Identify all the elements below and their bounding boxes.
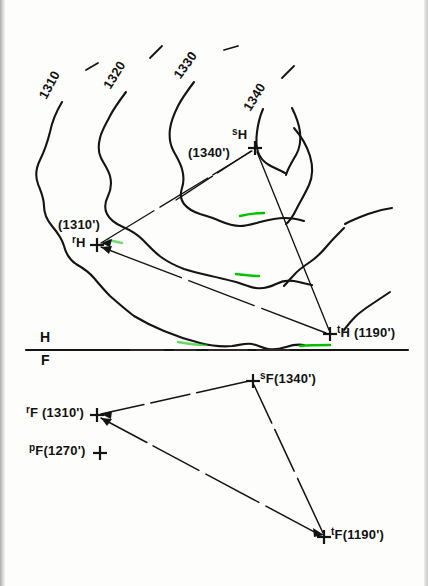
point-label-p-f: pF(1270') — [29, 444, 86, 457]
highlight-mark-1 — [240, 213, 264, 216]
marker-r-h — [90, 238, 104, 252]
point-label-s-h: sH — [232, 128, 247, 141]
point-letter-r-h: r — [72, 234, 76, 245]
marker-r-f — [90, 408, 104, 422]
point-letter-p-f: p — [29, 442, 35, 453]
elevation-label-r-h: (1310') — [58, 218, 100, 231]
contour-spur-mid-right — [284, 228, 344, 286]
highlight-mark-4 — [300, 345, 330, 346]
tick-mark-1310 — [86, 63, 98, 70]
highlight-mark-2 — [236, 274, 259, 276]
fold-line-letter-f: F — [41, 353, 50, 367]
arrowhead-rf-tf — [101, 418, 112, 426]
line-rh-th — [101, 247, 326, 333]
point-label-s-f: sF(1340') — [260, 372, 316, 385]
point-subscript-t-h: H — [341, 325, 351, 340]
tick-mark-1330 — [224, 46, 238, 50]
arrowhead-rh-th — [101, 246, 112, 254]
line-rf-sf — [101, 381, 249, 414]
tick-mark-1320 — [150, 46, 162, 58]
point-letter-t-h: t — [337, 324, 341, 335]
drawing-sheet: 1310 1320 1330 1340 sH (1340') (1310') r… — [0, 0, 428, 586]
elevation-label-t-f: (1190') — [343, 527, 384, 542]
contour-spur-right-edge — [345, 208, 392, 224]
point-subscript-r-h: H — [76, 235, 86, 250]
marker-s-f — [246, 374, 260, 388]
point-subscript-s-h: H — [238, 127, 248, 142]
contour-lines-group — [36, 82, 392, 349]
top-view-construction-lines — [101, 151, 329, 333]
front-view-arrowheads — [101, 411, 324, 537]
technical-drawing-canvas — [0, 0, 428, 586]
line-sf-tf — [254, 385, 323, 533]
front-view-construction-lines — [101, 381, 323, 535]
elevation-label-t-h: (1190') — [354, 325, 395, 340]
point-label-r-h: rH — [72, 236, 86, 249]
point-subscript-t-f: F — [335, 527, 343, 542]
line-rf-tf — [101, 418, 320, 535]
elevation-label-p-f: (1270') — [43, 443, 85, 458]
point-letter-r-f: r — [26, 404, 30, 415]
elevation-label-s-f: (1340') — [274, 371, 316, 386]
point-letter-t-f: t — [331, 526, 335, 537]
elevation-label-s-h: (1340') — [188, 146, 230, 159]
fold-line-letter-h: H — [40, 330, 50, 344]
point-letter-s-h: s — [232, 126, 238, 137]
highlight-marks-group — [108, 213, 330, 346]
point-label-r-f: rF (1310') — [26, 406, 84, 419]
point-label-t-h: tH (1190') — [337, 326, 395, 339]
point-letter-s-f: s — [260, 370, 266, 381]
point-subscript-s-f: F — [266, 371, 274, 386]
elevation-label-r-f: (1310') — [42, 405, 84, 420]
contour-line-1340 — [256, 109, 285, 173]
marker-p-f — [93, 446, 107, 460]
contour-line-1340-right-limb — [286, 108, 300, 175]
line-sh-th — [257, 152, 329, 330]
tick-mark-1340 — [282, 66, 294, 78]
marker-t-h — [323, 327, 337, 341]
point-label-t-f: tF(1190') — [331, 528, 384, 541]
